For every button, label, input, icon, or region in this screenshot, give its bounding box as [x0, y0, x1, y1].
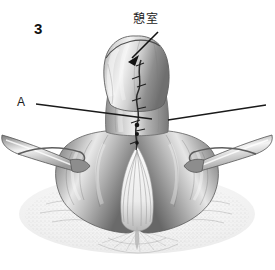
leader-line-right [168, 105, 266, 120]
label-diverticulum: 憩室 [133, 13, 159, 25]
illustration-canvas [0, 0, 275, 270]
label-marker-a: A [17, 96, 25, 108]
figure-number: 3 [34, 21, 42, 36]
medical-figure: 3 憩室 A [0, 0, 275, 270]
